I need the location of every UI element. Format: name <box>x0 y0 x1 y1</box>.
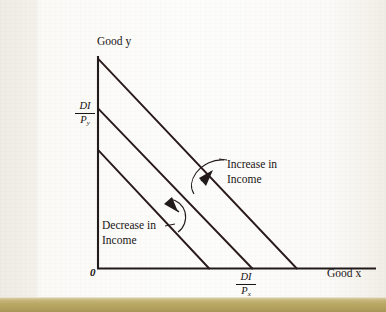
x-intercept-denominator: Px <box>236 285 256 297</box>
decrease-in-income-annotation: Decrease in Income <box>102 218 174 247</box>
y-axis-title: Good y <box>97 35 131 48</box>
decrease-line-2: Income <box>102 234 136 246</box>
x-intercept-label: DI Px <box>236 272 256 296</box>
x-intercept-numerator: DI <box>236 272 256 285</box>
y-intercept-numerator: DI <box>75 101 95 114</box>
y-intercept-label: DI Py <box>75 101 95 125</box>
budget-line-decreased-income <box>98 150 209 269</box>
slide-canvas: Good y Good x 0 DI Py DI Px Increase in … <box>0 0 386 312</box>
increase-in-income-arrow <box>192 160 224 194</box>
y-intercept-denominator: Py <box>75 114 95 126</box>
increase-line-1: Increase in <box>227 158 277 170</box>
x-axis-title: Good x <box>327 267 361 280</box>
increase-in-income-annotation: Increase in Income <box>227 157 307 186</box>
y-intercept-subscript: y <box>87 119 90 127</box>
increase-line-2: Income <box>227 173 261 185</box>
budget-line-chart <box>0 0 386 312</box>
decrease-line-1: Decrease in <box>102 219 156 231</box>
origin-label: 0 <box>90 266 96 279</box>
slide-bottom-bar <box>0 298 386 312</box>
